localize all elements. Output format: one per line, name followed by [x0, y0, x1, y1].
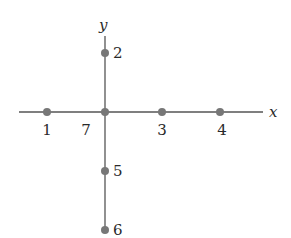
x-axis-label: x — [269, 103, 278, 121]
point-6-label: 6 — [113, 221, 123, 238]
point-1-dot — [43, 108, 51, 116]
y-axis-label: y — [98, 16, 108, 34]
points-group: 1234567 — [42, 44, 227, 238]
point-3-dot — [158, 108, 166, 116]
point-7-label: 7 — [81, 121, 91, 139]
point-5-dot — [101, 167, 109, 175]
point-4-label: 4 — [217, 121, 227, 139]
point-7-dot — [101, 108, 109, 116]
point-6-dot — [101, 226, 109, 234]
point-5-label: 5 — [113, 162, 123, 180]
coordinate-diagram: x y 1234567 — [0, 0, 291, 238]
point-2-label: 2 — [113, 44, 123, 62]
point-3-label: 3 — [157, 121, 167, 139]
point-1-label: 1 — [42, 121, 52, 139]
point-4-dot — [216, 108, 224, 116]
point-2-dot — [101, 49, 109, 57]
